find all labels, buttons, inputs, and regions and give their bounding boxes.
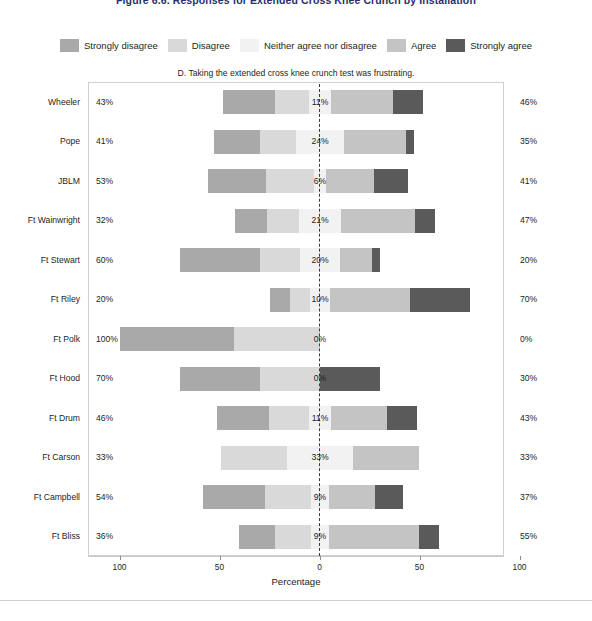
segment-strongly-agree: [374, 169, 408, 193]
segment-strongly-disagree: [180, 367, 260, 391]
segment-agree: [353, 446, 419, 470]
segment-strongly-disagree: [180, 248, 260, 272]
legend-item-1: Disagree: [168, 39, 230, 52]
x-tick-3: [420, 556, 421, 560]
legend-swatch-0: [60, 39, 79, 52]
segment-strongly-disagree: [214, 130, 260, 154]
legend-item-3: Agree: [387, 39, 436, 52]
segment-strongly-agree: [320, 367, 380, 391]
stacked-bar: [0, 161, 592, 201]
segment-disagree: [269, 406, 309, 430]
legend-item-4: Strongly agree: [446, 39, 532, 52]
segment-disagree: [260, 130, 296, 154]
segment-strongly-disagree: [120, 327, 234, 351]
legend-swatch-2: [240, 39, 259, 52]
stacked-bar: [0, 319, 592, 359]
segment-disagree: [234, 327, 320, 351]
legend-swatch-3: [387, 39, 406, 52]
legend-swatch-4: [446, 39, 465, 52]
bar-row: Ft Drum46%43%11%: [0, 398, 592, 438]
legend-label-1: Disagree: [192, 40, 230, 51]
segment-strongly-agree: [419, 525, 439, 549]
segment-strongly-disagree: [270, 288, 290, 312]
stacked-bar: [0, 359, 592, 399]
x-tick-label-2: 0: [300, 562, 340, 572]
x-tick-label-4: 100: [500, 562, 540, 572]
bar-row: JBLM53%41%6%: [0, 161, 592, 201]
x-axis-title: Percentage: [0, 576, 592, 587]
legend-label-2: Neither agree nor disagree: [264, 40, 377, 51]
stacked-bar: [0, 201, 592, 241]
zero-reference-line: [319, 84, 321, 556]
segment-disagree: [275, 90, 309, 114]
segment-strongly-disagree: [235, 209, 267, 233]
segment-disagree: [221, 446, 287, 470]
segment-disagree: [265, 485, 311, 509]
segment-agree: [329, 485, 375, 509]
segment-strongly-agree: [415, 209, 435, 233]
segment-strongly-disagree: [223, 90, 275, 114]
legend-label-3: Agree: [411, 40, 436, 51]
segment-strongly-agree: [375, 485, 403, 509]
segment-agree: [326, 169, 374, 193]
stacked-bar: [0, 477, 592, 517]
chart-legend: Strongly disagreeDisagreeNeither agree n…: [0, 39, 592, 52]
legend-label-0: Strongly disagree: [84, 40, 158, 51]
stacked-bar: [0, 438, 592, 478]
segment-strongly-disagree: [208, 169, 266, 193]
segment-disagree: [260, 248, 300, 272]
stacked-bar: [0, 398, 592, 438]
legend-swatch-1: [168, 39, 187, 52]
segment-strongly-agree: [406, 130, 414, 154]
bar-row: Ft Riley20%70%10%: [0, 280, 592, 320]
bar-row: Pope41%35%24%: [0, 122, 592, 162]
bar-row: Ft Wainwright32%47%21%: [0, 201, 592, 241]
segment-disagree: [267, 209, 299, 233]
stacked-bar: [0, 240, 592, 280]
segment-agree: [329, 525, 419, 549]
segment-strongly-agree: [372, 248, 380, 272]
bar-row: Ft Bliss36%55%9%: [0, 517, 592, 557]
bar-row: Ft Carson33%33%33%: [0, 438, 592, 478]
bar-row: Ft Polk100%0%0%: [0, 319, 592, 359]
x-tick-label-0: 100: [100, 562, 140, 572]
segment-disagree: [260, 367, 320, 391]
segment-strongly-disagree: [239, 525, 275, 549]
segment-strongly-disagree: [203, 485, 265, 509]
x-tick-4: [520, 556, 521, 560]
segment-disagree: [290, 288, 310, 312]
chart-subtitle: D. Taking the extended cross knee crunch…: [0, 68, 592, 78]
legend-item-2: Neither agree nor disagree: [240, 39, 377, 52]
x-axis-line: [88, 556, 504, 557]
x-tick-1: [220, 556, 221, 560]
segment-agree: [341, 209, 415, 233]
bar-row: Ft Hood70%30%0%: [0, 359, 592, 399]
segment-strongly-agree: [387, 406, 417, 430]
segment-strongly-agree: [410, 288, 470, 312]
stacked-bar: [0, 122, 592, 162]
segment-disagree: [275, 525, 311, 549]
segment-agree: [331, 90, 393, 114]
segment-agree: [340, 248, 372, 272]
bar-row: Ft Campbell54%37%9%: [0, 477, 592, 517]
bottom-divider: [0, 600, 592, 601]
stacked-bar: [0, 280, 592, 320]
segment-agree: [344, 130, 406, 154]
legend-label-4: Strongly agree: [470, 40, 532, 51]
bar-rows-container: Wheeler43%46%11%Pope41%35%24%JBLM53%41%6…: [0, 82, 592, 556]
stacked-bar: [0, 82, 592, 122]
stacked-bar: [0, 517, 592, 557]
x-tick-label-1: 50: [200, 562, 240, 572]
segment-strongly-disagree: [217, 406, 269, 430]
segment-strongly-agree: [393, 90, 423, 114]
x-tick-label-3: 50: [400, 562, 440, 572]
segment-agree: [331, 406, 387, 430]
legend-item-0: Strongly disagree: [60, 39, 158, 52]
segment-disagree: [266, 169, 314, 193]
x-tick-0: [120, 556, 121, 560]
figure-title: Figure 6.6. Responses for Extended Cross…: [0, 0, 592, 7]
x-tick-2: [320, 556, 321, 560]
bar-row: Ft Stewart60%20%20%: [0, 240, 592, 280]
segment-agree: [330, 288, 410, 312]
bar-row: Wheeler43%46%11%: [0, 82, 592, 122]
